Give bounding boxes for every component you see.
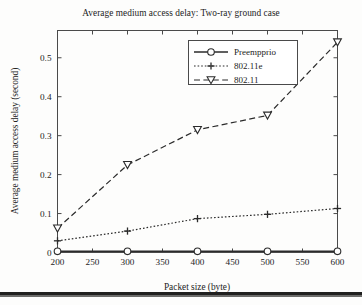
data-point-marker bbox=[124, 162, 132, 169]
data-point-marker bbox=[124, 227, 131, 234]
legend-label: 802.11 bbox=[234, 75, 258, 85]
data-point-marker bbox=[264, 211, 271, 218]
x-tick-label: 350 bbox=[156, 257, 170, 267]
x-tick-label: 550 bbox=[296, 257, 310, 267]
legend-marker bbox=[208, 49, 215, 56]
series-line bbox=[58, 208, 338, 240]
data-point-marker bbox=[124, 248, 131, 255]
data-point-marker bbox=[334, 205, 341, 212]
x-tick-label: 300 bbox=[121, 257, 135, 267]
series-preempprio bbox=[54, 248, 341, 255]
y-tick-label: 0.1 bbox=[40, 209, 52, 219]
series-802-11e bbox=[54, 205, 341, 245]
data-point-marker bbox=[54, 237, 61, 244]
y-tick-label: 0.3 bbox=[40, 131, 52, 141]
y-axis-tick-labels: 00.10.20.30.40.5 bbox=[40, 53, 52, 258]
data-point-marker bbox=[54, 248, 61, 255]
x-axis-tick-labels: 200250300350400450500550600 bbox=[51, 257, 345, 267]
data-point-marker bbox=[194, 127, 202, 134]
data-point-marker bbox=[194, 248, 201, 255]
data-point-marker bbox=[334, 248, 341, 255]
x-tick-label: 600 bbox=[331, 257, 345, 267]
data-point-marker bbox=[264, 112, 272, 119]
y-tick-label: 0.5 bbox=[40, 53, 52, 63]
legend-label: Preempprio bbox=[234, 47, 276, 57]
x-tick-label: 400 bbox=[191, 257, 205, 267]
figure-container: Average medium access delay: Two-ray gro… bbox=[0, 0, 362, 305]
page-divider-rule-secondary bbox=[0, 295, 362, 297]
x-tick-label: 200 bbox=[51, 257, 65, 267]
y-axis-label: Average medium access delay (second) bbox=[10, 68, 21, 214]
y-tick-label: 0.2 bbox=[40, 170, 52, 180]
x-tick-label: 450 bbox=[226, 257, 240, 267]
x-tick-label: 500 bbox=[261, 257, 275, 267]
x-tick-label: 250 bbox=[86, 257, 100, 267]
chart-legend: Preempprio802.11e802.11 bbox=[189, 41, 298, 86]
legend-label: 802.11e bbox=[234, 61, 262, 71]
data-point-marker bbox=[194, 215, 201, 222]
data-point-marker bbox=[54, 225, 62, 232]
y-tick-label: 0 bbox=[47, 248, 52, 258]
data-point-marker bbox=[264, 248, 271, 255]
y-tick-label: 0.4 bbox=[40, 92, 52, 102]
chart-plot-area: 200250300350400450500550600 00.10.20.30.… bbox=[0, 0, 362, 305]
